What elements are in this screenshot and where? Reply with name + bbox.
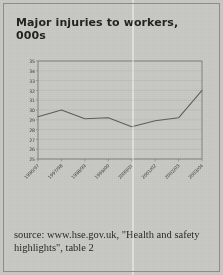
page-title: Major injuries to workers, 000s xyxy=(16,16,211,42)
y-tick-label: 30 xyxy=(29,108,35,113)
data-line xyxy=(38,90,202,126)
y-tick-label: 26 xyxy=(29,147,35,152)
y-tick-label: 31 xyxy=(29,98,35,103)
y-tick-label: 27 xyxy=(29,138,35,143)
x-tick-label: 2000/01 xyxy=(117,163,134,180)
y-tick-label: 34 xyxy=(29,69,35,74)
x-tick-label: 2001/02 xyxy=(141,163,158,180)
x-tick-label: 1997/98 xyxy=(47,163,64,180)
y-tick-label: 29 xyxy=(29,118,35,123)
x-tick-label: 1999/00 xyxy=(94,163,111,180)
x-tick-label: 2003/04 xyxy=(187,163,204,180)
y-tick-label: 33 xyxy=(29,79,35,84)
source-caption: source: www.hse.gov.uk, "Health and safe… xyxy=(14,228,212,254)
x-tick-label: 2002/03 xyxy=(164,163,181,180)
line-chart: 25262728293031323334351996/971997/981998… xyxy=(21,58,206,188)
y-tick-label: 32 xyxy=(29,89,35,94)
y-tick-label: 25 xyxy=(29,157,35,162)
y-tick-label: 28 xyxy=(29,128,35,133)
x-tick-label: 1998/99 xyxy=(70,163,87,180)
y-tick-label: 35 xyxy=(29,59,35,64)
scanned-page: Major injuries to workers, 000s 25262728… xyxy=(0,0,223,275)
chart-canvas: 25262728293031323334351996/971997/981998… xyxy=(21,58,206,188)
x-tick-label: 1996/97 xyxy=(23,163,40,180)
